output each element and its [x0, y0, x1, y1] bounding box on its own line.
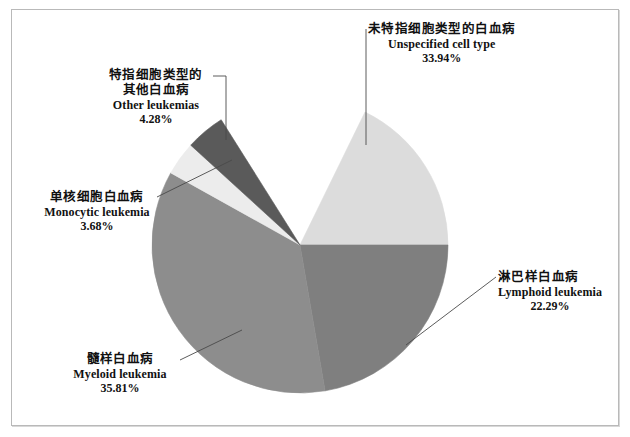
pie-label-other-pct: 4.28%: [95, 112, 217, 126]
pie-label-lymphoid: 淋巴样白血病 Lymphoid leukemia 22.29%: [498, 270, 602, 313]
pie-label-lymphoid-cn: 淋巴样白血病: [498, 270, 602, 285]
pie-label-unspecified-cn: 未特指细胞类型的白血病: [368, 22, 515, 37]
pie-label-myeloid-pct: 35.81%: [55, 381, 185, 395]
pie-label-unspecified-en: Unspecified cell type: [368, 37, 515, 51]
pie-label-other-cn-line1: 特指细胞类型的: [95, 68, 217, 83]
pie-label-unspecified: 未特指细胞类型的白血病 Unspecified cell type 33.94%: [368, 22, 515, 65]
pie-slices: [152, 112, 448, 393]
pie-label-unspecified-pct: 33.94%: [368, 51, 515, 65]
pie-slice-unspecified[interactable]: [300, 112, 448, 245]
pie-label-myeloid-cn: 髓样白血病: [55, 352, 185, 367]
pie-slice-lymphoid[interactable]: [300, 245, 448, 391]
pie-label-monocytic: 单核细胞白血病 Monocytic leukemia 3.68%: [33, 190, 161, 233]
pie-label-other-cn-line2: 其他白血病: [95, 83, 217, 98]
pie-label-lymphoid-en: Lymphoid leukemia: [498, 285, 602, 299]
pie-label-myeloid: 髓样白血病 Myeloid leukemia 35.81%: [55, 352, 185, 395]
pie-label-other: 特指细胞类型的 其他白血病 Other leukemias 4.28%: [95, 68, 217, 126]
pie-label-lymphoid-pct: 22.29%: [498, 299, 602, 313]
pie-label-monocytic-cn: 单核细胞白血病: [33, 190, 161, 205]
pie-label-other-en: Other leukemias: [95, 98, 217, 112]
pie-label-monocytic-pct: 3.68%: [33, 219, 161, 233]
pie-label-monocytic-en: Monocytic leukemia: [33, 205, 161, 219]
pie-label-myeloid-en: Myeloid leukemia: [55, 367, 185, 381]
